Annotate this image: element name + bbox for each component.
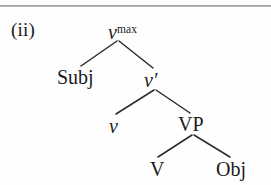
tree-node-v-label: v [109, 115, 118, 137]
tree-node-obj: Obj [216, 159, 246, 179]
branch-vbar-vp [156, 90, 190, 113]
branch-vmax-subj [81, 41, 117, 66]
tree-node-vbar-label: v′ [144, 69, 157, 91]
tree-node-vmax-superscript: max [117, 23, 137, 35]
tree-node-vhead: V [150, 159, 164, 179]
tree-node-vbar: v′ [144, 70, 157, 90]
branch-vmax-vbar [119, 41, 153, 68]
branch-vp-v [158, 135, 192, 157]
tree-node-v: v [109, 116, 118, 136]
tree-node-subj-label: Subj [57, 66, 94, 88]
tree-node-vp: VP [178, 114, 204, 134]
tree-node-subj: Subj [57, 67, 94, 87]
tree-node-vp-label: VP [178, 113, 204, 135]
tree-node-obj-label: Obj [216, 158, 246, 180]
tree-node-vmax-label: v [108, 21, 117, 43]
branch-vbar-v [116, 90, 154, 114]
tree-node-vhead-label: V [150, 158, 164, 180]
branch-vp-obj [194, 135, 230, 157]
figure-canvas: (ii) vmax Subj v′ v VP [0, 0, 271, 185]
tree-node-vmax: vmax [108, 22, 137, 42]
